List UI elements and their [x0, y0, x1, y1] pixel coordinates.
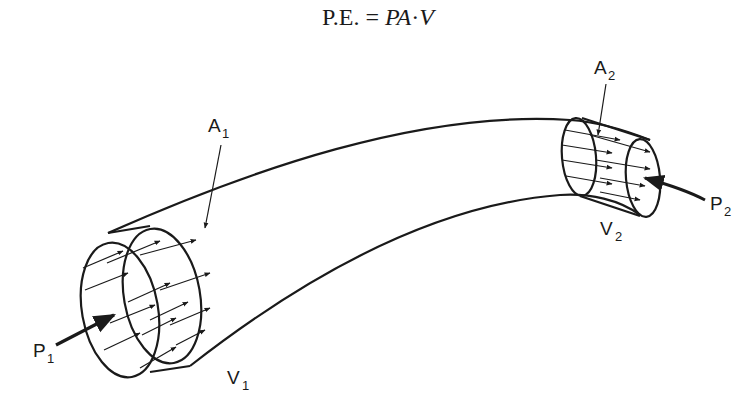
label-p1: P 1	[33, 340, 54, 366]
outlet-rear-ellipse	[559, 117, 600, 198]
label-v1: V 1	[227, 367, 249, 393]
svg-text:P: P	[710, 193, 723, 214]
svg-text:1: 1	[242, 378, 249, 393]
svg-text:2: 2	[724, 204, 731, 219]
inlet-rear-ellipse	[71, 236, 169, 383]
svg-text:2: 2	[608, 68, 615, 83]
outlet-section	[559, 84, 705, 218]
label-a1: A 1	[208, 115, 229, 141]
pipe-flow-diagram: A 1 A 2 P 1 V 1 P 2 V 2	[0, 0, 756, 412]
tube-bottom-edge	[190, 195, 640, 366]
inlet-front-ellipse	[113, 222, 211, 369]
svg-text:V: V	[227, 367, 240, 388]
label-a2: A 2	[594, 57, 615, 83]
label-p2: P 2	[710, 193, 731, 219]
area-pointer-a2	[598, 84, 606, 135]
svg-text:A: A	[208, 115, 221, 136]
svg-text:V: V	[600, 218, 613, 239]
svg-text:1: 1	[222, 126, 229, 141]
label-v2: V 2	[600, 218, 622, 244]
pressure-arrow-p2	[645, 178, 705, 200]
svg-text:A: A	[594, 57, 607, 78]
svg-text:1: 1	[47, 351, 54, 366]
svg-text:2: 2	[615, 229, 622, 244]
inlet-section	[56, 145, 221, 384]
svg-text:P: P	[33, 340, 46, 361]
tube-outline	[108, 119, 650, 366]
pressure-arrow-p1	[56, 315, 114, 345]
